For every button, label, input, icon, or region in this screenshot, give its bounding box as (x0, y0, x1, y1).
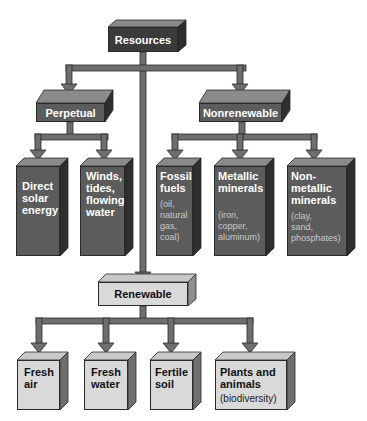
example-line: (biodiversity) (220, 393, 284, 404)
example-line: copper, (218, 221, 263, 232)
resources-diagram: Resources Perpetual Nonrenewable Direct … (0, 0, 367, 421)
label-line: solar (22, 192, 57, 204)
label-line: flowing (86, 194, 122, 206)
example-line: (iron, (218, 210, 263, 221)
label-line: Fresh (91, 366, 125, 378)
node-renewable-label: Renewable (114, 288, 171, 300)
label-line: animals (220, 378, 284, 390)
label-line: air (24, 378, 57, 390)
example-line: natural (160, 210, 190, 221)
label-line: tides, (86, 182, 122, 194)
label-line: Metallic (218, 170, 263, 182)
node-nonrenewable-label: Nonrenewable (203, 107, 278, 119)
label-line: minerals (218, 182, 263, 194)
label-line: Non- (291, 170, 344, 182)
label-line: Plants and (220, 366, 284, 378)
node-resources-label: Resources (115, 34, 171, 46)
label-line: minerals (291, 194, 344, 206)
label-line: soil (155, 378, 190, 390)
label-line: metallic (291, 182, 344, 194)
example-line: (oil, (160, 199, 190, 210)
example-line: phosphates) (291, 233, 344, 244)
example-line: sand, (291, 222, 344, 233)
label-line: Fresh (24, 366, 57, 378)
example-line: aluminum) (218, 232, 263, 243)
label-line: Fertile (155, 366, 190, 378)
label-line: Winds, (86, 170, 122, 182)
node-perpetual-label: Perpetual (45, 107, 95, 119)
example-line: gas, (160, 221, 190, 232)
example-line: (clay, (291, 211, 344, 222)
label-line: energy (22, 204, 57, 216)
label-line: fuels (160, 182, 190, 194)
label-line: Fossil (160, 170, 190, 182)
label-line: Direct (22, 180, 57, 192)
example-line: coal) (160, 232, 190, 243)
label-line: water (91, 378, 125, 390)
label-line: water (86, 206, 122, 218)
